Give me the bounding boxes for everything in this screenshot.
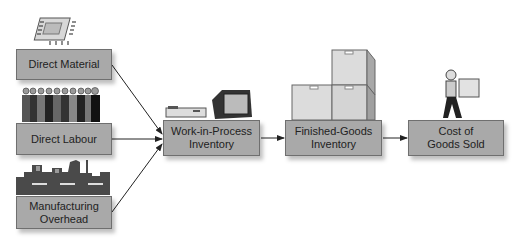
manufacturing-overhead-box: Manufacturing Overhead (16, 196, 112, 229)
factory-icon (16, 160, 110, 195)
box-label-line: Finished-Goods (295, 125, 373, 138)
person-carrying-box-icon (443, 70, 479, 118)
cost-of-goods-sold-box: Cost of Goods Sold (408, 120, 504, 156)
finished-goods-inventory-box: Finished-Goods Inventory (285, 120, 382, 156)
box-label-line: Inventory (171, 138, 252, 151)
box-label-line: Overhead (29, 213, 99, 226)
box-label-line: Inventory (295, 138, 373, 151)
box-label-line: Work-in-Process (171, 125, 252, 138)
box-label-line: Cost of (427, 125, 484, 138)
direct-labour-box: Direct Labour (16, 123, 112, 155)
work-in-process-inventory-box: Work-in-Process Inventory (163, 120, 260, 156)
boxes-icon (292, 50, 375, 120)
box-label-line: Goods Sold (427, 138, 484, 151)
computer-icon (166, 90, 252, 119)
microchip-icon (34, 18, 76, 45)
workers-icon (22, 88, 100, 123)
arrow-moh-to-wip (112, 144, 162, 212)
box-label: Direct Material (29, 58, 100, 71)
arrow-dm-to-wip (112, 65, 162, 134)
box-label-line: Manufacturing (29, 200, 99, 213)
direct-material-box: Direct Material (16, 49, 112, 80)
box-label: Direct Labour (31, 133, 97, 146)
